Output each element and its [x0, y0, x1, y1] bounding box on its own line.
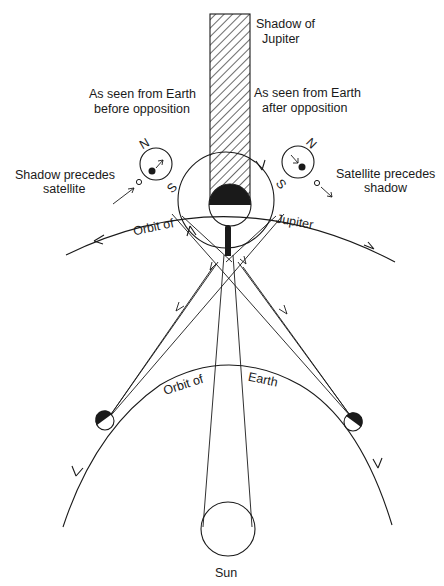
- right-note-line1: Satellite precedes: [336, 167, 435, 181]
- south-label-left: S: [164, 180, 180, 196]
- earth-orbit-label-a: Orbit of: [162, 372, 206, 398]
- jupiter-shadow-column: [210, 14, 250, 205]
- north-label-right: N: [303, 135, 319, 151]
- earth-before-opposition: [95, 410, 114, 430]
- earth-orbit-arrow-left: [72, 466, 83, 476]
- earth-orbit: [63, 365, 392, 527]
- after-label-line2: after opposition: [262, 101, 348, 115]
- inset-before-opposition: [113, 148, 172, 204]
- shadow-label-line1: Shadow of: [256, 17, 316, 31]
- shadow-label-line2: Jupiter: [262, 32, 300, 46]
- satellite-orbit-arrow-right: [256, 160, 265, 170]
- left-note-line1: Shadow precedes: [15, 168, 115, 182]
- jupiter-satellite-eclipse-diagram: Shadow of Jupiter As seen from Earth bef…: [0, 0, 444, 586]
- sightlines-right: [172, 214, 352, 418]
- right-note-line2: shadow: [364, 181, 408, 195]
- south-label-right: S: [273, 176, 289, 191]
- before-label-line1: As seen from Earth: [89, 87, 196, 101]
- sightlines-left: [107, 214, 284, 420]
- sun-label: Sun: [215, 566, 237, 580]
- before-label-line2: before opposition: [94, 102, 190, 116]
- inset-after-opposition: [282, 146, 332, 197]
- satellite-position-marker: [225, 225, 231, 256]
- earth-orbit-arrow-right: [373, 458, 382, 468]
- jupiter-orbit-label-a: Orbit of: [132, 216, 176, 238]
- left-note-line2: satellite: [43, 182, 85, 196]
- earth-after-opposition: [344, 412, 363, 431]
- earth-orbit-label-b: Earth: [247, 370, 279, 390]
- sun: [201, 502, 255, 556]
- after-label-line1: As seen from Earth: [254, 86, 361, 100]
- jupiter-orbit-label-b: Jupiter: [275, 212, 314, 232]
- jupiter: [209, 184, 251, 226]
